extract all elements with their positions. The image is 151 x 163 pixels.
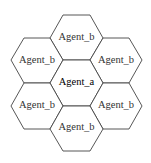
hex-lower-left-label: Agent_b (19, 99, 55, 110)
hex-upper-left-label: Agent_b (19, 54, 55, 65)
hex-lower-right-label: Agent_b (98, 99, 134, 110)
hex-upper-right-label: Agent_b (98, 54, 134, 65)
hex-top-label: Agent_b (58, 31, 94, 42)
hex-center-label: Agent_a (59, 76, 95, 87)
hex-grid-diagram: Agent_b Agent_b Agent_b Agent_a Agent_b … (0, 0, 151, 163)
hex-bottom-label: Agent_b (58, 121, 94, 132)
